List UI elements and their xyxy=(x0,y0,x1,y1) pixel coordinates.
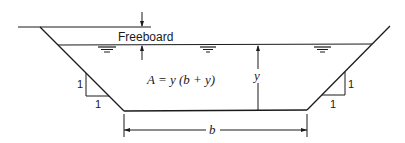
area-formula: A = y (b + y) xyxy=(146,72,215,87)
left-slope-run: 1 xyxy=(95,98,101,110)
right-bank xyxy=(307,26,390,110)
left-slope-rise: 1 xyxy=(77,78,83,90)
water-surface-symbol-right xyxy=(314,47,331,52)
right-slope-rise: 1 xyxy=(348,78,354,90)
right-slope-run: 1 xyxy=(330,98,336,110)
channel-bottom xyxy=(124,110,307,111)
channel-diagram: Freeboard A = y (b + y) y 1 1 1 1 b xyxy=(0,0,405,143)
left-bank xyxy=(40,27,124,111)
bottom-width-label: b xyxy=(209,122,216,137)
bottom-width-dimension xyxy=(124,114,307,137)
water-surface-symbol-left xyxy=(98,47,116,52)
water-surface xyxy=(58,44,372,45)
depth-label: y xyxy=(252,68,260,83)
freeboard-label: Freeboard xyxy=(118,30,173,44)
water-surface-symbol-middle xyxy=(200,47,216,52)
